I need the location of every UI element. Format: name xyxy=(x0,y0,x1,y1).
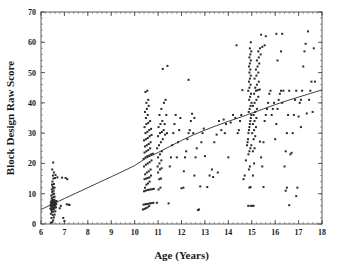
data-point xyxy=(248,126,250,128)
data-point xyxy=(247,90,249,92)
data-point xyxy=(280,90,282,92)
data-point xyxy=(296,187,298,189)
data-point xyxy=(240,114,242,116)
x-tick-label: 8 xyxy=(86,228,90,237)
data-point xyxy=(253,129,255,131)
data-point xyxy=(236,44,238,46)
data-point xyxy=(275,123,277,125)
data-point xyxy=(53,199,55,201)
data-point xyxy=(256,108,258,110)
data-point xyxy=(253,114,255,116)
data-point xyxy=(305,43,307,45)
data-point xyxy=(176,156,178,158)
data-point xyxy=(160,178,162,180)
data-point xyxy=(248,150,250,152)
data-point xyxy=(55,174,57,176)
data-point xyxy=(172,132,174,134)
data-point xyxy=(261,165,263,167)
data-point xyxy=(50,213,52,215)
figure-background xyxy=(0,0,339,269)
data-point xyxy=(249,47,251,49)
y-tick-label: 0 xyxy=(32,220,36,229)
data-point xyxy=(150,128,152,130)
x-tick-label: 13 xyxy=(201,228,209,237)
data-point xyxy=(247,138,249,140)
data-point xyxy=(181,187,183,189)
data-point xyxy=(51,217,53,219)
data-point xyxy=(158,188,160,190)
data-point xyxy=(145,102,147,104)
data-point xyxy=(62,217,64,219)
data-point xyxy=(146,108,148,110)
data-point xyxy=(259,141,261,143)
data-point xyxy=(188,79,190,81)
data-point xyxy=(299,102,301,104)
data-point xyxy=(159,153,161,155)
y-tick-label: 60 xyxy=(28,38,36,47)
x-tick-label: 11 xyxy=(154,228,162,237)
y-tick-label: 50 xyxy=(28,69,36,78)
data-point xyxy=(250,93,252,95)
data-point xyxy=(54,196,56,198)
data-point xyxy=(147,122,149,124)
data-point xyxy=(54,210,56,212)
data-point xyxy=(286,132,288,134)
data-point xyxy=(149,181,151,183)
data-point xyxy=(60,205,62,207)
data-point xyxy=(144,145,146,147)
data-point xyxy=(257,96,259,98)
data-point xyxy=(277,59,279,61)
plot-canvas: 6789101112131415161718 010203040506070 A… xyxy=(0,0,339,269)
data-point xyxy=(237,132,239,134)
x-tick-label: 7 xyxy=(62,228,66,237)
data-point xyxy=(312,111,314,113)
x-tick-label: 16 xyxy=(271,228,279,237)
data-point xyxy=(250,117,252,119)
data-point xyxy=(203,128,205,130)
data-point xyxy=(184,156,186,158)
data-point xyxy=(271,114,273,116)
data-point xyxy=(61,177,63,179)
data-point xyxy=(275,33,277,35)
x-tick-label: 6 xyxy=(39,228,43,237)
data-point xyxy=(277,108,279,110)
data-point xyxy=(158,162,160,164)
data-point xyxy=(256,84,258,86)
data-point xyxy=(147,99,149,101)
data-point xyxy=(250,75,252,77)
data-point xyxy=(303,50,305,52)
data-point xyxy=(152,202,154,204)
data-point xyxy=(258,81,260,83)
data-point xyxy=(260,34,262,36)
data-point xyxy=(54,187,56,189)
data-point xyxy=(144,111,146,113)
data-point xyxy=(52,186,54,188)
data-point xyxy=(249,69,251,71)
data-point xyxy=(144,152,146,154)
data-point xyxy=(162,138,164,140)
data-point xyxy=(250,105,252,107)
data-point xyxy=(169,165,171,167)
data-point xyxy=(254,87,256,89)
data-point xyxy=(257,89,259,91)
data-point xyxy=(54,214,56,216)
data-point xyxy=(249,123,251,125)
data-point xyxy=(148,205,150,207)
data-point xyxy=(185,150,187,152)
data-point xyxy=(148,105,150,107)
data-point xyxy=(149,135,151,137)
data-point xyxy=(267,102,269,104)
data-point xyxy=(157,156,159,158)
data-point xyxy=(279,93,281,95)
data-point xyxy=(262,141,264,143)
data-point xyxy=(192,132,194,134)
data-point xyxy=(250,50,252,52)
data-point xyxy=(158,144,160,146)
data-point xyxy=(250,84,252,86)
data-point xyxy=(257,72,259,74)
data-point xyxy=(200,141,202,143)
data-point xyxy=(306,112,308,114)
data-point xyxy=(258,62,260,64)
data-point xyxy=(193,175,195,177)
data-point xyxy=(248,99,250,101)
